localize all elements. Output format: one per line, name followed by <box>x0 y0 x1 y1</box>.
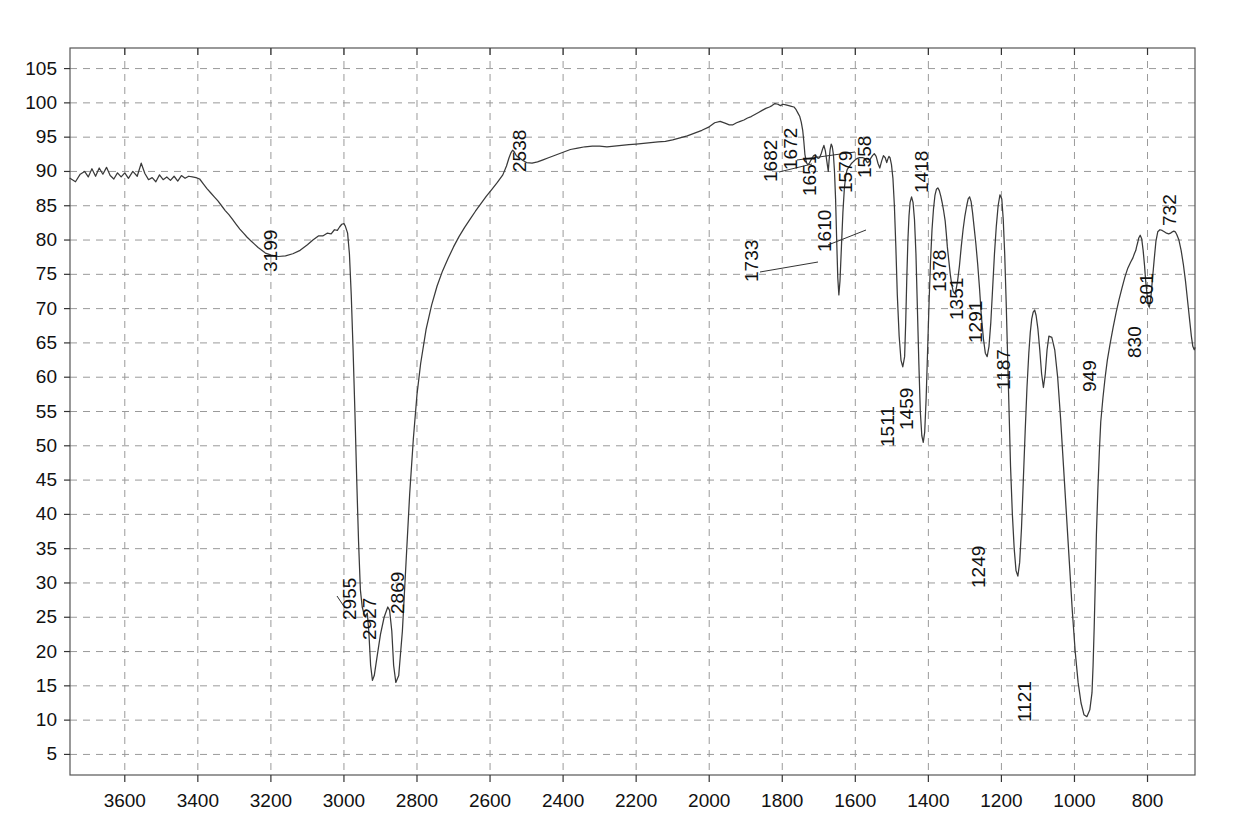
x-axis-tick-label: 2000 <box>688 790 730 811</box>
y-axis-tick-label: 60 <box>36 366 57 387</box>
peak-label-1249: 1249 <box>968 546 989 588</box>
x-axis-tick-label: 1000 <box>1053 790 1095 811</box>
peak-label-2869: 2869 <box>387 572 408 614</box>
x-axis-tick-label: 2200 <box>615 790 657 811</box>
peak-label-1651: 1651 <box>799 154 820 196</box>
peak-label-2538: 2538 <box>509 130 530 172</box>
x-axis-tick-label: 3400 <box>177 790 219 811</box>
x-axis-tick-label: 3000 <box>323 790 365 811</box>
y-axis-tick-label: 25 <box>36 606 57 627</box>
y-axis-tick-label: 70 <box>36 298 57 319</box>
peak-label-2955: 2955 <box>339 578 360 620</box>
x-axis-tick-label: 1800 <box>761 790 803 811</box>
peak-label-1558: 1558 <box>854 136 875 178</box>
x-axis-tick-label: 1600 <box>834 790 876 811</box>
peak-label-801: 801 <box>1136 273 1157 305</box>
peak-label-1672: 1672 <box>780 128 801 170</box>
peak-label-1351: 1351 <box>946 278 967 320</box>
peak-label-2927: 2927 <box>359 598 380 640</box>
x-axis-tick-labels: 3600340032003000280026002400220020001800… <box>104 790 1164 811</box>
y-axis-tick-label: 20 <box>36 641 57 662</box>
ir-spectrum-chart: 5101520253035404550556065707580859095100… <box>0 0 1233 840</box>
y-axis-tick-label: 10 <box>36 709 57 730</box>
peak-label-3199: 3199 <box>260 230 281 272</box>
y-axis-tick-label: 45 <box>36 469 57 490</box>
peak-label-1459: 1459 <box>896 388 917 430</box>
peak-label-1682: 1682 <box>760 140 781 182</box>
x-axis-tick-label: 3200 <box>250 790 292 811</box>
chart-background <box>0 0 1233 840</box>
peak-label-949: 949 <box>1079 360 1100 392</box>
y-axis-tick-label: 90 <box>36 160 57 181</box>
y-axis-tick-label: 75 <box>36 263 57 284</box>
x-axis-tick-label: 3600 <box>104 790 146 811</box>
peak-label-830: 830 <box>1124 326 1145 358</box>
y-axis-tick-label: 80 <box>36 229 57 250</box>
y-axis-tick-label: 15 <box>36 675 57 696</box>
x-axis-tick-label: 800 <box>1132 790 1164 811</box>
x-axis-tick-label: 2400 <box>542 790 584 811</box>
y-axis-tick-label: 50 <box>36 435 57 456</box>
y-axis-tick-label: 95 <box>36 126 57 147</box>
peak-label-1579: 1579 <box>835 151 856 193</box>
x-axis-tick-label: 2600 <box>469 790 511 811</box>
y-axis-tick-label: 40 <box>36 503 57 524</box>
peak-label-1121: 1121 <box>1014 681 1035 722</box>
peak-label-732: 732 <box>1159 194 1180 226</box>
y-axis-tick-label: 35 <box>36 538 57 559</box>
x-axis-tick-label: 2800 <box>396 790 438 811</box>
y-axis-tick-label: 85 <box>36 195 57 216</box>
y-axis-tick-label: 65 <box>36 332 57 353</box>
peak-label-1511: 1511 <box>877 406 898 447</box>
spectrum-svg: 5101520253035404550556065707580859095100… <box>0 0 1233 840</box>
peak-label-1418: 1418 <box>911 151 932 193</box>
x-axis-tick-label: 1400 <box>907 790 949 811</box>
peak-label-1610: 1610 <box>814 210 835 252</box>
peak-label-1291: 1291 <box>965 301 986 343</box>
y-axis-tick-label: 100 <box>25 92 57 113</box>
peak-label-1187: 1187 <box>993 349 1014 390</box>
peak-label-1733: 1733 <box>741 240 762 282</box>
y-axis-tick-label: 5 <box>46 743 57 764</box>
y-axis-tick-label: 30 <box>36 572 57 593</box>
x-axis-tick-label: 1200 <box>980 790 1022 811</box>
y-axis-tick-label: 55 <box>36 401 57 422</box>
y-axis-tick-label: 105 <box>25 58 57 79</box>
